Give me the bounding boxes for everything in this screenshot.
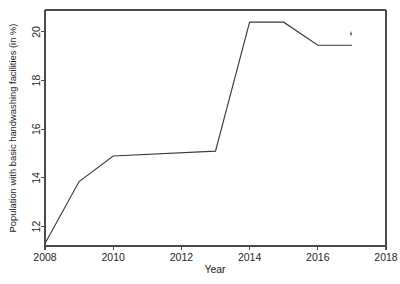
y-tick-label-18: 18 bbox=[30, 75, 42, 87]
chart-svg: 1214161820 200820102012201420162018 Year… bbox=[0, 0, 400, 284]
y-tick-label-20: 20 bbox=[30, 26, 42, 38]
x-tick-label-2010: 2010 bbox=[102, 251, 126, 263]
y-axis-title: Population with basic handwashing facili… bbox=[7, 24, 18, 233]
data-series-line bbox=[45, 22, 352, 243]
artifact-speck-2 bbox=[351, 32, 352, 36]
x-tick-label-2018: 2018 bbox=[374, 251, 398, 263]
x-axis-tick-labels: 200820102012201420162018 bbox=[33, 251, 398, 263]
y-tick-label-16: 16 bbox=[30, 123, 42, 135]
y-tick-label-12: 12 bbox=[30, 221, 42, 233]
x-axis-ticks bbox=[45, 246, 386, 250]
x-tick-label-2012: 2012 bbox=[170, 251, 194, 263]
y-axis-tick-labels: 1214161820 bbox=[30, 26, 42, 232]
x-tick-label-2014: 2014 bbox=[238, 251, 262, 263]
y-tick-label-14: 14 bbox=[30, 172, 42, 184]
line-chart: 1214161820 200820102012201420162018 Year… bbox=[0, 0, 400, 284]
x-tick-label-2008: 2008 bbox=[33, 251, 57, 263]
x-tick-label-2016: 2016 bbox=[306, 251, 330, 263]
x-axis-title: Year bbox=[204, 263, 226, 275]
